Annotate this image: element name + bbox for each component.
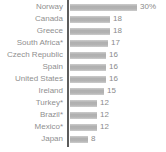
- category-label: Japan: [0, 133, 68, 145]
- value-label: 15: [107, 85, 116, 97]
- value-label: 12: [100, 109, 109, 121]
- plot-area: 18: [68, 13, 166, 25]
- bar: [70, 100, 97, 107]
- plot-area: 16: [68, 49, 166, 61]
- value-label: 16: [109, 61, 118, 73]
- chart-row: South Africa*17: [0, 37, 166, 49]
- category-label: Ireland: [0, 85, 68, 97]
- value-label: 17: [111, 37, 120, 49]
- plot-area: 17: [68, 37, 166, 49]
- chart-row: Czech Republic16: [0, 49, 166, 61]
- bar: [70, 64, 106, 71]
- chart-row: Turkey*12: [0, 97, 166, 109]
- category-label: Canada: [0, 13, 68, 25]
- bar: [70, 136, 88, 143]
- category-label: Spain: [0, 61, 68, 73]
- value-label: 12: [100, 121, 109, 133]
- bar: [70, 88, 104, 95]
- category-label: Mexico*: [0, 121, 68, 133]
- plot-area: 18: [68, 25, 166, 37]
- value-label: 8: [91, 133, 95, 145]
- bar: [70, 76, 106, 83]
- value-label: 30%: [140, 1, 156, 13]
- bar-chart: Norway30%Canada18Greece18South Africa*17…: [0, 0, 166, 152]
- value-label: 12: [100, 97, 109, 109]
- plot-area: 8: [68, 133, 166, 145]
- category-label: South Africa*: [0, 37, 68, 49]
- bar: [70, 52, 106, 59]
- plot-area: 30%: [68, 1, 166, 13]
- plot-area: 12: [68, 121, 166, 133]
- chart-row: Ireland15: [0, 85, 166, 97]
- chart-row: United States16: [0, 73, 166, 85]
- category-label: Turkey*: [0, 97, 68, 109]
- bar: [70, 4, 137, 11]
- plot-area: 15: [68, 85, 166, 97]
- chart-row: Brazil*12: [0, 109, 166, 121]
- bar: [70, 28, 110, 35]
- chart-row: Norway30%: [0, 1, 166, 13]
- value-label: 18: [113, 25, 122, 37]
- category-label: United States: [0, 73, 68, 85]
- category-label: Czech Republic: [0, 49, 68, 61]
- chart-rows: Norway30%Canada18Greece18South Africa*17…: [0, 1, 166, 145]
- plot-area: 16: [68, 73, 166, 85]
- plot-area: 16: [68, 61, 166, 73]
- bar: [70, 40, 108, 47]
- chart-row: Japan8: [0, 133, 166, 145]
- plot-area: 12: [68, 97, 166, 109]
- plot-area: 12: [68, 109, 166, 121]
- category-label: Greece: [0, 25, 68, 37]
- value-label: 18: [113, 13, 122, 25]
- chart-row: Canada18: [0, 13, 166, 25]
- value-label: 16: [109, 73, 118, 85]
- value-label: 16: [109, 49, 118, 61]
- category-label: Brazil*: [0, 109, 68, 121]
- bar: [70, 16, 110, 23]
- category-label: Norway: [0, 1, 68, 13]
- bar: [70, 124, 97, 131]
- chart-row: Greece18: [0, 25, 166, 37]
- chart-row: Spain16: [0, 61, 166, 73]
- bar: [70, 112, 97, 119]
- chart-row: Mexico*12: [0, 121, 166, 133]
